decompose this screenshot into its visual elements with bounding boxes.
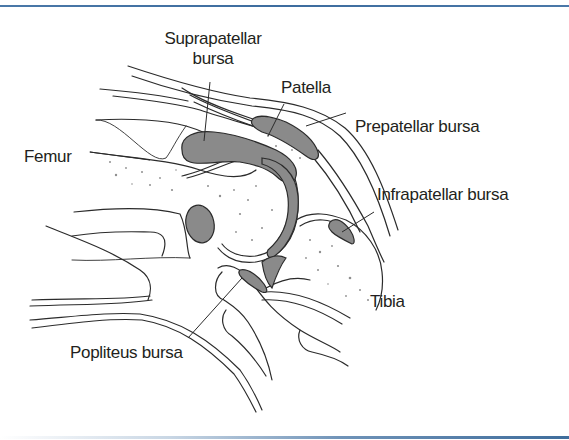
label-popliteus-bursa: Popliteus bursa xyxy=(70,344,183,361)
label-patella: Patella xyxy=(281,79,331,96)
infrapatellar-bursa-shape xyxy=(329,220,354,244)
label-femur: Femur xyxy=(24,148,72,165)
frame-bottom-border xyxy=(0,436,569,439)
label-suprapatellar-line2: bursa xyxy=(148,50,278,67)
popliteus-bursa-shape xyxy=(239,270,267,293)
label-tibia: Tibia xyxy=(370,293,405,310)
label-suprapatellar-line1: Suprapatellar xyxy=(148,30,278,47)
label-infrapatellar-bursa: Infrapatellar bursa xyxy=(377,186,508,203)
knee-anatomy-illustration xyxy=(0,0,569,440)
label-prepatellar-bursa: Prepatellar bursa xyxy=(355,118,479,135)
label-suprapatellar-bursa: Suprapatellar bursa xyxy=(148,30,278,67)
